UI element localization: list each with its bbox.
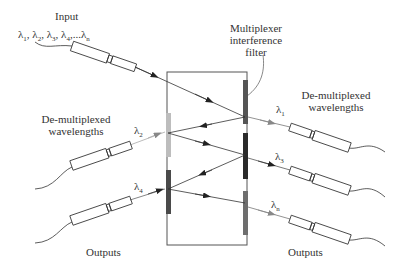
internal-beams bbox=[168, 117, 245, 203]
outputs-label-left: Outputs bbox=[86, 246, 121, 258]
demux-label-left: De-multiplexed wavelengths bbox=[36, 113, 116, 137]
filter-left-top bbox=[166, 113, 171, 157]
output-right-1 bbox=[248, 117, 385, 152]
output-left-2 bbox=[35, 132, 165, 189]
lambda-2-label: λ2 bbox=[134, 124, 143, 139]
lambda-3-label: λ3 bbox=[275, 150, 284, 165]
output-left-4 bbox=[35, 189, 165, 243]
input-fiber bbox=[35, 41, 137, 72]
filter-left-bottom bbox=[166, 170, 171, 214]
lambda-1-label: λ1 bbox=[276, 103, 285, 118]
output-right-3 bbox=[248, 158, 385, 197]
filter-label: Multiplexer interference filter bbox=[216, 22, 296, 58]
glass-block bbox=[167, 72, 247, 245]
lambda-4-label: λ4 bbox=[134, 180, 143, 195]
filter-leader-line bbox=[247, 55, 264, 96]
demux-diagram: Input λ1, λ2, λ3, λ4,...λn Multiplexer i… bbox=[0, 0, 404, 269]
lambda-n-label: λn bbox=[271, 198, 280, 213]
filter-right-middle bbox=[243, 133, 248, 179]
filter-right-bottom bbox=[243, 191, 248, 235]
demux-label-right: De-multiplexed wavelengths bbox=[296, 89, 376, 113]
output-right-n bbox=[248, 207, 385, 246]
outputs-label-right: Outputs bbox=[288, 246, 323, 258]
input-wavelengths: λ1, λ2, λ3, λ4,...λn bbox=[18, 28, 90, 43]
input-title: Input bbox=[55, 10, 78, 22]
